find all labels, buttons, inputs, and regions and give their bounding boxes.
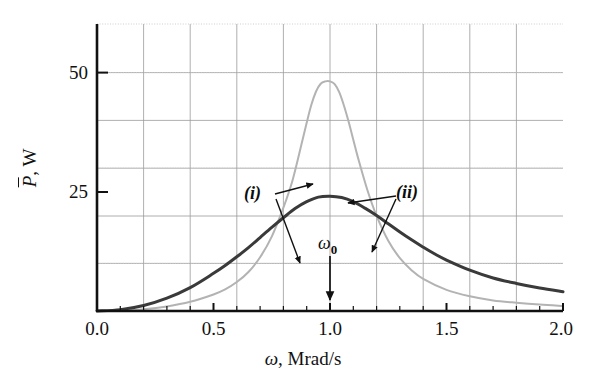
series-label-i: (i) — [244, 183, 261, 204]
annotation-leaders-i — [275, 184, 313, 263]
figure-container: 0.0 0.5 1.0 1.5 2.0 50 25 ω, Mrad/s P, W… — [0, 0, 606, 380]
series-label-ii: (ii) — [396, 182, 418, 203]
x-axis-title: ω, Mrad/s — [265, 348, 342, 370]
resonance-symbol: ω — [318, 233, 331, 253]
x-tick-label-0: 0.0 — [85, 318, 109, 340]
y-tick-label-50: 50 — [55, 62, 88, 84]
x-axis-symbol: ω — [265, 348, 278, 369]
x-axis-unit: , Mrad/s — [278, 348, 341, 369]
y-axis-major-ticks — [97, 73, 108, 192]
x-tick-label-4: 2.0 — [549, 318, 573, 340]
y-axis-symbol: P — [19, 176, 41, 188]
x-tick-label-2: 1.0 — [318, 318, 342, 340]
resonance-subscript: 0 — [331, 242, 337, 257]
y-tick-label-25: 25 — [55, 181, 88, 203]
resonance-label: ω0 — [318, 233, 337, 258]
y-axis-unit: , W — [19, 149, 40, 176]
y-axis-title: P, W — [19, 149, 41, 188]
x-tick-label-3: 1.5 — [435, 318, 459, 340]
x-tick-label-1: 0.5 — [202, 318, 226, 340]
